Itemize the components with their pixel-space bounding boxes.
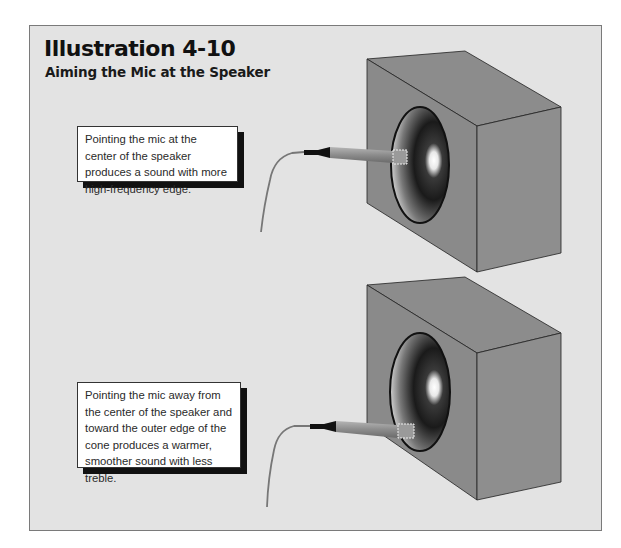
microphone-edge (267, 421, 414, 507)
callout-edge-mic: Pointing the mic away from the center of… (77, 382, 241, 468)
callout-center-mic: Pointing the mic at the center of the sp… (77, 126, 238, 182)
mic-cable (261, 152, 304, 232)
mic-grille (393, 150, 407, 164)
mic-cable (267, 426, 310, 507)
mic-connector (310, 421, 336, 432)
mic-grille (398, 424, 414, 438)
speaker-cabinet-bottom (367, 277, 561, 500)
mic-connector (304, 147, 330, 158)
cabinet-side-face (477, 333, 561, 500)
cabinet-side-face (477, 107, 561, 272)
speaker-cone (391, 107, 449, 223)
